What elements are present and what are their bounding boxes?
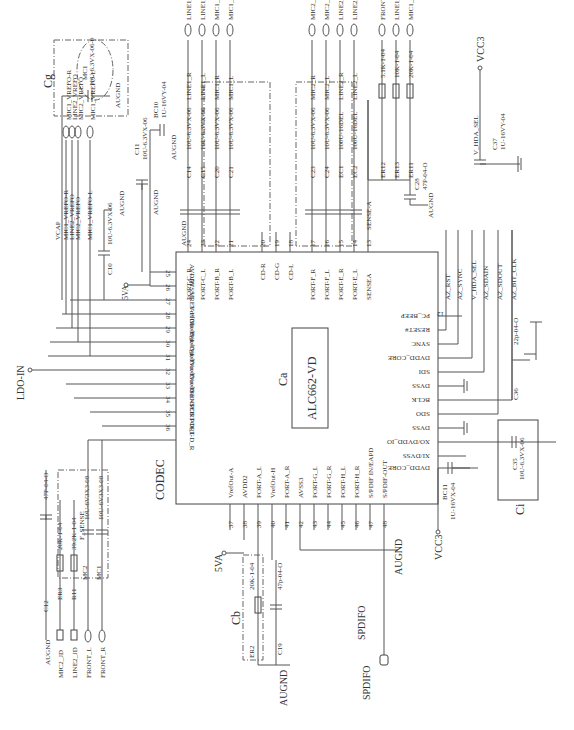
- svg-text:VCC3: VCC3: [475, 36, 486, 62]
- bottom-pin: 39PORT-A_L: [255, 466, 263, 530]
- svg-text:FRONT_R: FRONT_R: [99, 647, 107, 678]
- bottom-pin: 48S/PDIF-OUT: [381, 460, 389, 655]
- svg-text:LINE1_R: LINE1_R: [185, 72, 193, 100]
- cap-group-1-box: [204, 82, 270, 246]
- svg-text:FRONT_JD: FRONT_JD: [379, 0, 387, 20]
- bottom-pin: 47S/PDIF IN/EAPD: [367, 448, 375, 530]
- chip-part-label: ALC662-VD: [305, 356, 319, 420]
- bottom-pin: 38AVDD2: [241, 475, 249, 540]
- svg-text:45: 45: [339, 521, 347, 529]
- ldo-in: LDO-IN: [15, 366, 60, 400]
- svg-text:EC2: EC2: [351, 165, 359, 178]
- svg-text:SENSEA: SENSEA: [365, 274, 373, 300]
- ci-label: Ci: [513, 503, 527, 515]
- top-pin: 20CD-R: [259, 232, 267, 280]
- c10-capacitor: C1010U-6.3VX-06 AUGND: [98, 191, 126, 300]
- svg-text:C20: C20: [213, 166, 221, 178]
- right-pin: XI/DVSS: [403, 452, 466, 460]
- svg-text:ER13: ER13: [393, 162, 401, 178]
- svg-text:20K-1-04: 20K-1-04: [407, 50, 415, 78]
- svg-text:33: 33: [164, 382, 172, 390]
- svg-text:S/PDIF IN/EAPD: S/PDIF IN/EAPD: [367, 448, 375, 498]
- bottom-pin: 37VrefOut-A: [227, 468, 235, 530]
- svg-text:XO/DVDD_IO: XO/DVDD_IO: [387, 438, 430, 446]
- svg-text:V_HDA_SEL: V_HDA_SEL: [472, 115, 480, 155]
- svg-text:C24: C24: [323, 166, 331, 178]
- svg-text:MIC1_L: MIC1_L: [227, 0, 235, 20]
- svg-text:37: 37: [227, 521, 235, 529]
- svg-text:AUGND: AUGND: [278, 670, 289, 706]
- svg-text:10U-6.3VX-06: 10U-6.3VX-06: [141, 117, 149, 160]
- left-pin: 29VrefOut-C_L: [56, 320, 196, 358]
- net-az-sdout: AZ_SDOUT: [496, 263, 504, 300]
- svg-text:LINE2_R: LINE2_R: [337, 72, 345, 100]
- svg-text:28: 28: [164, 312, 172, 320]
- bottom-pin: 43PORT-G_L: [311, 466, 319, 530]
- svg-text:DVSS: DVSS: [412, 424, 430, 432]
- cg-label: Cg: [41, 74, 55, 88]
- svg-text:LINE2_L: LINE2_L: [351, 73, 359, 100]
- svg-text:CD-L: CD-L: [287, 264, 295, 280]
- right-pin: DVSS: [412, 421, 467, 435]
- top-pin: 19CD-G: [273, 232, 281, 280]
- spdif-out: SPDIFO SPDIFO: [356, 606, 388, 700]
- svg-text:AUGND: AUGND: [170, 135, 178, 160]
- svg-text:1U-16VX-04: 1U-16VX-04: [449, 482, 457, 520]
- svg-text:C36: C36: [512, 388, 520, 400]
- svg-text:10K-1-04: 10K-1-04: [393, 50, 401, 78]
- svg-text:PORT-F_R: PORT-F_R: [309, 268, 317, 300]
- svg-text:SDI: SDI: [418, 368, 430, 376]
- c37-capacitor: VCC3 V_HDA_SEL C371U-16VY-04: [472, 36, 521, 172]
- svg-text:BC11: BC11: [441, 483, 449, 500]
- svg-text:MIC1_VREFO-L: MIC1_VREFO-L: [86, 190, 94, 240]
- c36-capacitor: C3622p-04-O: [512, 230, 542, 400]
- svg-text:BCLK: BCLK: [411, 396, 430, 404]
- svg-text:LDO-IN: LDO-IN: [15, 366, 26, 400]
- svg-text:SDO: SDO: [416, 410, 430, 418]
- svg-text:AVDD2: AVDD2: [241, 475, 249, 498]
- svg-text:MIC2_R: MIC2_R: [309, 0, 317, 20]
- svg-text:CD-R: CD-R: [259, 263, 267, 280]
- net-az-sync: AZ_SYNC: [456, 268, 464, 300]
- svg-text:10U-6.3VX-06: 10U-6.3VX-06: [518, 437, 526, 480]
- svg-text:C15: C15: [199, 166, 207, 178]
- svg-text:43: 43: [311, 521, 319, 529]
- cap-group-1: C1410U-6.3VX-06LINE1_RLINE1_R C1510U-6.3…: [180, 0, 240, 214]
- svg-text:BC10: BC10: [152, 101, 160, 118]
- svg-text:25: 25: [164, 270, 172, 278]
- right-net-labels: AZ_RST AZ_SYNC V_HDA_SEL AZ_SDAIN AZ_SDO…: [444, 258, 518, 300]
- svg-text:47p-04-O: 47p-04-O: [276, 563, 284, 590]
- schematic-canvas: ALC662-VD Ca CODEC 24PORT-C_R 23PORT-C_L…: [0, 0, 574, 730]
- svg-text:MIC1_VREFO-L: MIC1_VREFO-L: [89, 70, 97, 120]
- svg-text:PORT-E_L: PORT-E_L: [351, 269, 359, 300]
- left-pin: 36PORT-D_R: [102, 418, 196, 451]
- augnd-top: AUGND: [180, 221, 188, 246]
- svg-text:ER12: ER12: [379, 162, 387, 178]
- svg-text:LINE1_L: LINE1_L: [199, 73, 207, 100]
- svg-text:12: 12: [437, 310, 445, 318]
- left-pin: 30VrefOut-F: [50, 334, 196, 363]
- svg-text:47P-04-O: 47P-04-O: [421, 162, 429, 190]
- svg-text:48: 48: [381, 521, 389, 529]
- svg-text:S/PDIF-OUT: S/PDIF-OUT: [381, 460, 389, 498]
- right-pin: DVSS: [412, 379, 467, 393]
- net-v-hda-sel: V_HDA_SEL: [470, 260, 478, 300]
- vref-nets: VCAP MIC1_VREFO-R LINE2_VREFO MIC2_VREFO…: [54, 69, 97, 356]
- svg-text:100U-16DEL: 100U-16DEL: [337, 112, 345, 151]
- svg-text:LINE2_R: LINE2_R: [337, 0, 345, 20]
- svg-text:10U-6.3VX-06: 10U-6.3VX-06: [106, 202, 114, 245]
- sense-a-net: SENSE-A: [365, 201, 373, 230]
- svg-text:5VA: 5VA: [121, 285, 130, 300]
- bc10-capacitor: BC101U-16VY-04 AUGND: [150, 81, 178, 286]
- cb-network: ER220K-1-04 C1947p-04-O AUGND 5VA: [213, 530, 290, 706]
- svg-text:PORT-H_L: PORT-H_L: [339, 466, 347, 498]
- cap-group-2-box: [296, 82, 352, 246]
- avdd-5va: 5VA: [121, 283, 150, 300]
- svg-text:1U-16VY-04: 1U-16VY-04: [160, 81, 168, 118]
- svg-text:PORT-B_L: PORT-B_L: [227, 268, 235, 300]
- svg-text:VCC3: VCC3: [433, 534, 444, 560]
- right-pin: XO/DVDD_IO: [387, 438, 556, 446]
- svg-text:SYNC: SYNC: [411, 340, 430, 348]
- svg-text:10U-6.3VX-06: 10U-6.3VX-06: [227, 107, 235, 150]
- svg-text:10U-6V3X3-08: 10U-6V3X3-08: [83, 475, 91, 520]
